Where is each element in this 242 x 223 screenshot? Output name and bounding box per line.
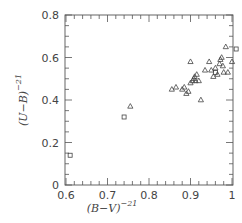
triangle-marker [202, 67, 207, 72]
triangle-marker [225, 70, 230, 75]
svg-text:0.6: 0.6 [57, 189, 75, 202]
triangle-marker [128, 104, 133, 109]
tick-labels: 0.60.70.80.9100.20.40.60.8 [42, 9, 236, 202]
svg-text:0: 0 [52, 179, 59, 192]
triangle-marker [188, 59, 193, 64]
scatter-plot: 0.60.70.80.9100.20.40.60.8 (B−V)−21 (U−B… [0, 0, 242, 223]
svg-text:0.8: 0.8 [140, 189, 158, 202]
svg-text:0.6: 0.6 [42, 52, 60, 65]
svg-text:0.9: 0.9 [182, 189, 200, 202]
y-axis-title: (U−B)−21 [14, 74, 30, 126]
triangle-marker [198, 97, 203, 102]
plot-frame [65, 15, 233, 185]
triangle-marker [223, 44, 228, 49]
axis-ticks [65, 15, 233, 185]
svg-text:0.4: 0.4 [42, 94, 60, 107]
svg-text:1: 1 [229, 189, 236, 202]
square-marker [68, 153, 72, 157]
x-axis-title: (B−V)−21 [87, 199, 138, 215]
svg-text:0.7: 0.7 [99, 189, 117, 202]
triangle-marker [207, 59, 212, 64]
square-marker [122, 115, 126, 119]
data-points [68, 44, 238, 157]
triangle-marker [229, 59, 234, 64]
svg-text:0.2: 0.2 [42, 137, 60, 150]
triangle-marker [173, 84, 178, 89]
svg-text:0.8: 0.8 [42, 9, 60, 22]
square-marker [234, 47, 238, 51]
